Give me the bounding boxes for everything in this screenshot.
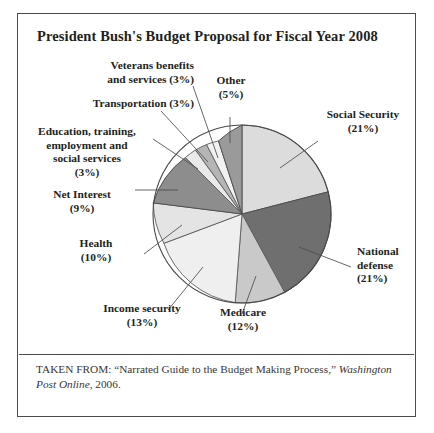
label-transportation: Transportation (3%)	[28, 97, 194, 111]
label-medicare: Medicare (12%)	[201, 306, 285, 333]
label-education: Education, training, employment and soci…	[22, 125, 152, 179]
label-social-security: Social Security (21%)	[310, 108, 416, 135]
label-income-security: Income security (13%)	[83, 302, 201, 329]
footer-divider	[19, 354, 414, 355]
figure-frame: President Bush's Budget Proposal for Fis…	[17, 13, 416, 417]
source-prefix: TAKEN FROM: “Narrated Guide to the Budge…	[36, 363, 339, 375]
label-veterans-benefits: Veterans benefits and services (3%)	[42, 59, 194, 86]
label-other: Other (5%)	[205, 74, 257, 101]
label-net-interest: Net Interest (9%)	[30, 188, 134, 215]
pie-slices	[153, 125, 331, 303]
source-citation: TAKEN FROM: “Narrated Guide to the Budge…	[36, 362, 398, 392]
leader-transportation	[161, 111, 208, 162]
source-suffix: , 2006.	[90, 378, 121, 390]
label-national-defense: National defense (21%)	[357, 245, 417, 286]
label-health: Health (10%)	[52, 237, 140, 264]
